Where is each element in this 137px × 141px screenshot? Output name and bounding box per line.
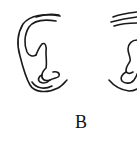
- panel-label: B: [71, 112, 91, 132]
- right-ear-drawing: [109, 12, 137, 91]
- ear-figure: [0, 0, 137, 141]
- left-ear-drawing: [18, 14, 67, 91]
